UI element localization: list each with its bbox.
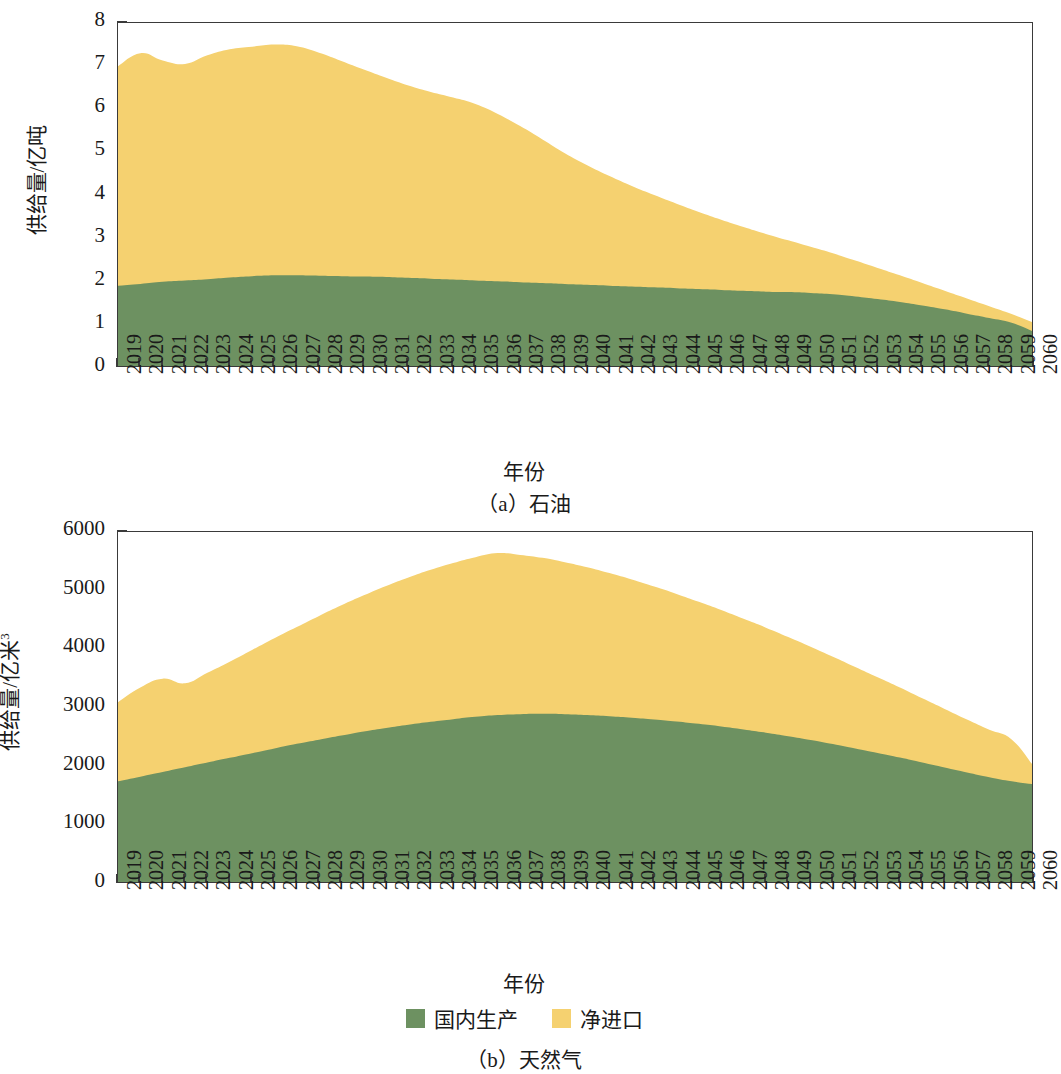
x-tick-label: 2055 xyxy=(928,850,948,890)
x-tick-label: 2050 xyxy=(817,850,837,890)
x-tick-label: 2025 xyxy=(258,850,278,890)
y-tick-label: 2000 xyxy=(0,753,105,774)
x-tick-label: 2039 xyxy=(571,334,591,374)
x-tick-label: 2053 xyxy=(884,850,904,890)
x-tick-label: 2045 xyxy=(705,850,725,890)
x-tick-label: 2049 xyxy=(794,850,814,890)
x-tick-label: 2051 xyxy=(839,334,859,374)
y-tick-label: 4 xyxy=(0,182,105,203)
x-tick-label: 2023 xyxy=(213,850,233,890)
figure-caption-b: （b）天然气 xyxy=(0,1043,1048,1073)
x-tick-label: 2033 xyxy=(437,334,457,374)
x-tick-label: 2021 xyxy=(169,334,189,374)
x-tick-label: 2044 xyxy=(683,850,703,890)
figure-natural-gas: 供给量/亿米3 0100020003000400050006000 201920… xyxy=(0,505,1048,1074)
y-tick-label: 7 xyxy=(0,52,105,73)
y-tick-label: 0 xyxy=(0,354,105,375)
x-tick-label: 2019 xyxy=(124,850,144,890)
x-tick-label: 2021 xyxy=(169,850,189,890)
x-tick-label: 2060 xyxy=(1040,334,1060,374)
x-tick-label: 2037 xyxy=(526,334,546,374)
x-tick-label: 2042 xyxy=(638,334,658,374)
x-tick-label: 2046 xyxy=(727,850,747,890)
x-tick-label: 2023 xyxy=(213,334,233,374)
figure-petroleum: 供给量/亿吨 012345678 20192020202120222023202… xyxy=(0,0,1048,500)
x-tick-label: 2028 xyxy=(325,334,345,374)
x-tick-label: 2053 xyxy=(884,334,904,374)
x-tick-label: 2039 xyxy=(571,850,591,890)
x-tick-label: 2043 xyxy=(660,334,680,374)
x-tick-label: 2030 xyxy=(370,850,390,890)
area-chart-petroleum xyxy=(118,23,1033,367)
y-tick-label: 1000 xyxy=(0,811,105,832)
x-tick-label: 2040 xyxy=(593,850,613,890)
x-tick-label: 2052 xyxy=(861,334,881,374)
x-tick-label: 2048 xyxy=(772,850,792,890)
x-tick-label: 2035 xyxy=(481,850,501,890)
x-tick-label: 2033 xyxy=(437,850,457,890)
x-tick-label: 2029 xyxy=(347,850,367,890)
y-tick-label: 0 xyxy=(0,870,105,891)
x-tick-label: 2022 xyxy=(191,334,211,374)
y-tick-label: 5 xyxy=(0,138,105,159)
x-tick-label: 2057 xyxy=(973,850,993,890)
x-tick-label: 2054 xyxy=(906,850,926,890)
legend-label: 国内生产 xyxy=(434,1003,518,1033)
x-tick-label: 2034 xyxy=(459,850,479,890)
legend-item-domestic-production[interactable]: 国内生产 xyxy=(406,1003,518,1033)
x-tick-label: 2037 xyxy=(526,850,546,890)
x-tick-label: 2058 xyxy=(995,850,1015,890)
legend-label: 净进口 xyxy=(580,1003,643,1033)
x-tick-label: 2045 xyxy=(705,334,725,374)
x-tick-label: 2036 xyxy=(504,850,524,890)
plot-area-natural-gas xyxy=(117,531,1033,883)
x-tick-label: 2046 xyxy=(727,334,747,374)
x-tick-label: 2059 xyxy=(1018,334,1038,374)
x-tick-label: 2058 xyxy=(995,334,1015,374)
x-tick-label: 2038 xyxy=(548,850,568,890)
x-tick-label: 2047 xyxy=(750,334,770,374)
legend-item-net-imports[interactable]: 净进口 xyxy=(552,1003,643,1033)
x-tick-label: 2048 xyxy=(772,334,792,374)
y-tick-label: 8 xyxy=(0,9,105,30)
area-chart-natural-gas xyxy=(118,532,1033,883)
x-tick-label: 2049 xyxy=(794,334,814,374)
x-tick-label: 2031 xyxy=(392,850,412,890)
x-tick-label: 2044 xyxy=(683,334,703,374)
plot-area-petroleum xyxy=(117,22,1033,367)
x-tick-label: 2059 xyxy=(1018,850,1038,890)
x-axis-title-b: 年份 xyxy=(0,967,1048,997)
x-tick-label: 2050 xyxy=(817,334,837,374)
y-tick-label: 2 xyxy=(0,268,105,289)
x-tick-label: 2038 xyxy=(548,334,568,374)
x-tick-label: 2027 xyxy=(303,850,323,890)
x-tick-label: 2024 xyxy=(236,334,256,374)
x-tick-label: 2047 xyxy=(750,850,770,890)
x-tick-label: 2025 xyxy=(258,334,278,374)
y-tick-label: 6 xyxy=(0,95,105,116)
y-tick-label: 5000 xyxy=(0,577,105,598)
y-tick-label: 3000 xyxy=(0,694,105,715)
x-tick-label: 2027 xyxy=(303,334,323,374)
chart-legend: 国内生产净进口 xyxy=(0,1003,1048,1033)
x-tick-label: 2054 xyxy=(906,334,926,374)
x-tick-label: 2034 xyxy=(459,334,479,374)
x-tick-label: 2056 xyxy=(951,334,971,374)
x-tick-label: 2043 xyxy=(660,850,680,890)
y-tick-label: 3 xyxy=(0,225,105,246)
x-tick-label: 2024 xyxy=(236,850,256,890)
x-tick-label: 2051 xyxy=(839,850,859,890)
x-tick-label: 2020 xyxy=(146,850,166,890)
x-tick-label: 2056 xyxy=(951,850,971,890)
y-tick-label: 6000 xyxy=(0,518,105,539)
x-tick-label: 2036 xyxy=(504,334,524,374)
x-tick-label: 2060 xyxy=(1040,850,1060,890)
x-tick-label: 2022 xyxy=(191,850,211,890)
x-tick-label: 2026 xyxy=(280,850,300,890)
y-tick-label: 4000 xyxy=(0,635,105,656)
x-tick-label: 2032 xyxy=(414,334,434,374)
x-tick-label: 2042 xyxy=(638,850,658,890)
x-tick-label: 2041 xyxy=(616,850,636,890)
legend-swatch-icon xyxy=(406,1009,425,1028)
